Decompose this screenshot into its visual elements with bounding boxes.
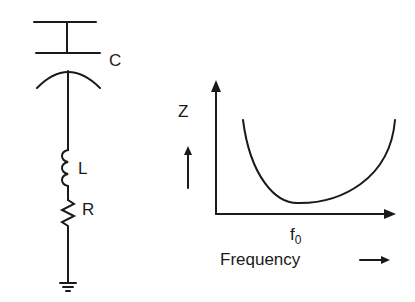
f-subscript: 0 [295, 233, 302, 247]
x-axis-arrowhead [384, 209, 396, 219]
inductor-label: L [78, 160, 87, 177]
y-arrow-head [184, 146, 192, 155]
x-arrow-head [381, 256, 390, 264]
resistor-label: R [82, 201, 94, 218]
capacitor-label: C [109, 52, 121, 69]
y-axis-arrowhead [211, 80, 221, 92]
graph-axes [216, 88, 388, 214]
x-axis-label: Frequency [220, 251, 300, 268]
ground-symbol [60, 283, 76, 291]
diagram-canvas [0, 0, 415, 302]
y-axis-label: Z [178, 103, 188, 120]
inductor-symbol [62, 150, 68, 200]
resonant-frequency-label: f0 [290, 226, 301, 246]
impedance-curve [243, 120, 395, 203]
resistor-symbol [62, 200, 74, 283]
